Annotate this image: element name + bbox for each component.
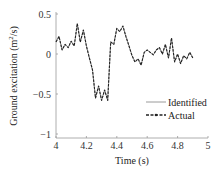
series-line-actual: [56, 24, 193, 101]
x-tick-label: 4: [54, 140, 59, 151]
series-line-identified: [56, 24, 193, 101]
series-group: [56, 24, 193, 101]
x-tick-label: 4.2: [80, 140, 93, 151]
legend-marker-actual: [155, 114, 158, 117]
x-tick-label: 4.8: [171, 140, 184, 151]
legend-label-identified: Identified: [168, 97, 207, 108]
legend: Identified Actual: [146, 97, 207, 121]
x-axis-label: Time (s): [115, 155, 149, 167]
x-tick-label: 4.6: [141, 140, 154, 151]
x-tick-label: 4.4: [111, 140, 124, 151]
y-tick-label: −1: [40, 129, 51, 140]
legend-label-actual: Actual: [168, 110, 195, 121]
x-tick-label: 5: [206, 140, 211, 151]
y-ticks: 0.50−0.5−1: [33, 9, 58, 140]
y-axis-label: Ground excitation (m2/s): [7, 26, 20, 126]
y-tick-label: 0.5: [39, 9, 52, 20]
y-axis-label-tail: /s): [8, 26, 20, 36]
y-axis-label-main: Ground excitation (m: [8, 39, 20, 125]
chart: 0.50−0.5−1 44.24.44.64.85 Identified Act…: [0, 0, 222, 174]
y-tick-label: 0: [46, 49, 51, 60]
y-tick-label: −0.5: [33, 89, 51, 100]
